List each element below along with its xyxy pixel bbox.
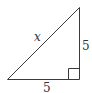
right-angle-marker (69, 69, 80, 80)
hypotenuse-label: x (34, 30, 41, 44)
horizontal-leg-label: 5 (43, 81, 51, 93)
right-triangle-diagram: x 5 5 (0, 0, 92, 93)
vertical-leg-label: 5 (82, 39, 90, 53)
